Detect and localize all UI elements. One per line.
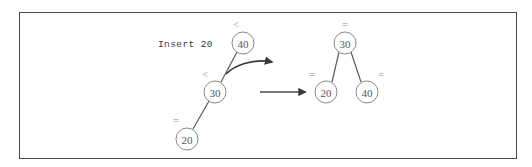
node-value-label: 40 xyxy=(238,38,250,50)
node-after-30: 30 = xyxy=(334,19,356,55)
node-value-label: 30 xyxy=(210,87,222,99)
balance-factor-label: < xyxy=(202,69,208,80)
edge-30-to-40-balanced xyxy=(351,52,361,82)
node-before-20: 20 = xyxy=(173,115,198,151)
node-after-20: 20 = xyxy=(309,69,337,104)
caption-insert-label: Insert 20 xyxy=(158,39,213,50)
edge-30-to-20-balanced xyxy=(332,52,339,82)
node-after-40: 40 = xyxy=(356,69,384,104)
node-value-label: 20 xyxy=(321,87,333,99)
balance-factor-label: = xyxy=(342,19,348,30)
diagram-canvas: Insert 20 40 < 30 < 20 = xyxy=(0,0,532,167)
balanced-tree-group: 30 = 20 = 40 = xyxy=(309,19,384,104)
balance-factor-label: < xyxy=(233,19,239,30)
avl-rotation-figure: Insert 20 40 < 30 < 20 = xyxy=(0,0,532,167)
rotation-arrow xyxy=(226,61,272,74)
balance-factor-label: = xyxy=(173,115,179,126)
balance-factor-label: = xyxy=(309,69,315,80)
node-value-label: 20 xyxy=(182,134,194,146)
node-before-40: 40 < xyxy=(232,19,254,55)
edge-30-to-20 xyxy=(193,101,209,129)
node-before-30: 30 < xyxy=(202,69,226,104)
node-value-label: 40 xyxy=(362,87,374,99)
balance-factor-label: = xyxy=(378,69,384,80)
node-value-label: 30 xyxy=(340,38,352,50)
